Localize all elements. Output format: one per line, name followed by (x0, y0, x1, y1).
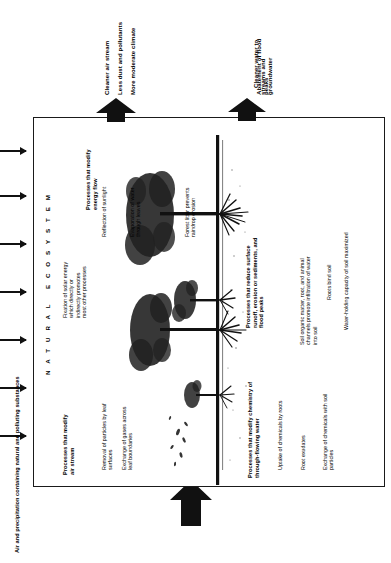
arrow-right-icon (0, 339, 26, 341)
group-heading: Processes that modify energy flow (85, 149, 98, 210)
arrow-right-icon (0, 243, 26, 245)
input-label: Air and precipitation containing natural… (14, 353, 21, 553)
group-heading: Processes that reduce surface runoff, er… (245, 237, 265, 328)
block-arrow-up-icon (96, 98, 136, 122)
process-item: Water-holding capacity of soil maximized (343, 232, 349, 330)
process-item: Root exudates (300, 435, 306, 470)
process-item: Forest litter prevents raindrop erosion (184, 188, 197, 237)
process-item: Reflection of sunlight (101, 187, 107, 237)
arrow-right-icon (0, 435, 26, 437)
page-title: N A T U R A L E C O S Y S T E M (44, 192, 51, 375)
process-item: Exchange of chemicals with soil particle… (322, 394, 335, 470)
process-item: Roots bind soil (326, 265, 332, 301)
process-item: Soil organic matter, root, and animal ch… (299, 257, 318, 345)
output-label: Abatement of flood peaks (256, 39, 270, 95)
arrow-right-icon (0, 291, 26, 293)
process-item: Removal of particles by leaf surfaces (101, 404, 114, 470)
process-item: Fixation of solar energy which directly … (62, 262, 87, 318)
output-label: Less dust and pollutants (117, 22, 124, 95)
process-item: Uptake of chemicals by roots (277, 401, 283, 470)
output-label: Cleaner air stream (104, 41, 111, 95)
arrow-right-icon (0, 150, 26, 152)
group-heading: Processes that modify chemistry of throu… (247, 382, 260, 478)
arrow-right-icon (0, 195, 26, 197)
block-arrow-up-icon (228, 98, 266, 121)
group-heading: Processes that modify air stream (62, 414, 75, 475)
arrow-right-icon (0, 387, 26, 389)
process-item: Exchange of gases across leaf boundaries (121, 407, 134, 470)
output-label: More moderate climate (130, 28, 137, 95)
process-item: Evaporation of water through leaves (129, 187, 142, 237)
